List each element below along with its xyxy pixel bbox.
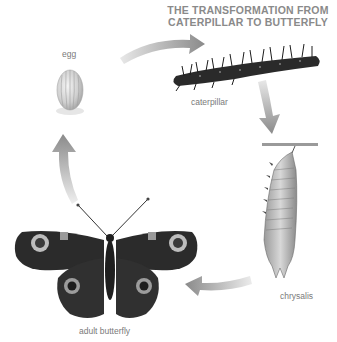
- label-chrysalis: chrysalis: [280, 291, 313, 301]
- label-egg: egg: [62, 49, 76, 59]
- arrow-egg-to-caterpillar-icon: [120, 34, 205, 64]
- label-caterpillar: caterpillar: [191, 97, 228, 107]
- arrow-caterpillar-to-chrysalis-icon: [258, 80, 280, 134]
- egg-icon: [56, 70, 84, 115]
- butterfly-icon: [15, 197, 197, 318]
- arrow-chrysalis-to-adult-icon: [185, 276, 252, 296]
- label-adult-butterfly: adult butterfly: [79, 326, 130, 336]
- chrysalis-icon: [262, 143, 318, 278]
- arrow-adult-to-egg-icon: [52, 134, 78, 204]
- caterpillar-icon: [173, 44, 319, 91]
